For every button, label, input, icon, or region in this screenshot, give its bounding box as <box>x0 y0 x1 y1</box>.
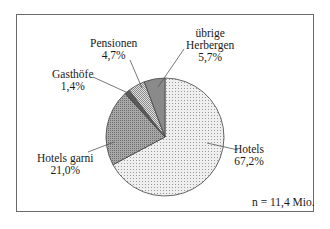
label-hotels: Hotels67,2% <box>234 143 264 167</box>
sample-size-note: n = 11,4 Mio. <box>252 196 315 208</box>
label-hotels-garni: Hotels garni21,0% <box>37 152 94 176</box>
label-pensionen: Pensionen4,7% <box>90 37 137 61</box>
label-uebrige-herbergen: übrigeHerbergen5,7% <box>186 27 234 63</box>
label-gasthoefe: Gasthöfe1,4% <box>52 68 94 92</box>
pie-chart <box>0 0 330 229</box>
pie-slices <box>106 78 224 196</box>
